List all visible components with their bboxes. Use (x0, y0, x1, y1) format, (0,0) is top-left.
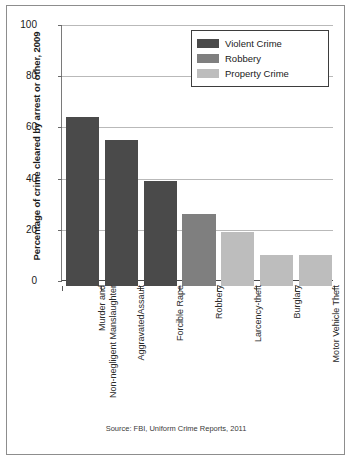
bar (105, 140, 138, 286)
legend-label: Violent Crime (225, 38, 282, 49)
legend-item: Robbery (197, 51, 321, 66)
legend-label: Robbery (225, 53, 261, 64)
y-tick-label: 60 (0, 121, 37, 132)
bar (260, 255, 293, 286)
y-tick-mark (58, 281, 62, 282)
y-tick-mark (58, 76, 62, 77)
y-tick-mark (58, 127, 62, 128)
source-note: Source: FBI, Uniform Crime Reports, 2011 (0, 424, 352, 433)
x-axis-label: Motor Vehicle Theft (331, 285, 352, 413)
x-axis-label: AggravatedAssault (136, 285, 170, 413)
y-tick-label: 40 (0, 173, 37, 184)
y-tick-mark (58, 179, 62, 180)
y-axis-title: Percentage of crime cleared by arrest or… (31, 16, 43, 276)
bar (299, 255, 332, 286)
legend-label: Property Crime (225, 68, 289, 79)
y-tick-label: 100 (0, 19, 37, 30)
gridline (62, 25, 333, 26)
legend-swatch-robbery (197, 54, 219, 63)
bar (182, 214, 215, 286)
chart-figure: Percentage of crime cleared by arrest or… (0, 0, 352, 461)
x-axis-label: Robbery (214, 285, 248, 413)
legend-swatch-violent (197, 39, 219, 48)
legend-item: Violent Crime (197, 36, 321, 51)
y-tick-label: 0 (0, 275, 37, 286)
legend-swatch-property (197, 69, 219, 78)
y-tick-mark (58, 230, 62, 231)
y-tick-mark (58, 25, 62, 26)
x-axis-label: Forcible Rape (175, 285, 209, 413)
bar (144, 181, 177, 286)
y-tick-label: 20 (0, 224, 37, 235)
x-axis-label: Murder and Non-negligent Manslaughter (97, 285, 131, 413)
y-tick-label: 80 (0, 70, 37, 81)
x-axis-labels: Murder and Non-negligent ManslaughterAgg… (61, 285, 333, 413)
x-axis-label: Burglary (292, 285, 326, 413)
bar (66, 117, 99, 286)
chart-legend: Violent CrimeRobberyProperty Crime (191, 30, 329, 87)
bar (221, 232, 254, 286)
legend-item: Property Crime (197, 66, 321, 81)
x-axis-label: Larcency-theft (253, 285, 287, 413)
